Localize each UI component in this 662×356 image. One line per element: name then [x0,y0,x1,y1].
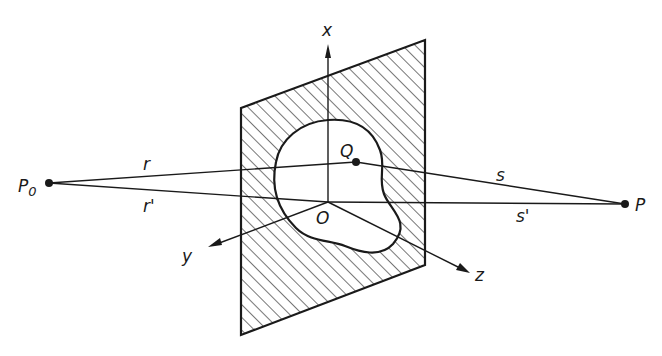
x-axis-arrow-icon [325,44,331,58]
label-z-axis: z [474,265,485,285]
opaque-screen [241,40,425,335]
label-s: s [496,165,505,185]
label-x-axis: x [321,20,333,40]
label-P: P [635,195,646,215]
source-point-P0 [45,179,53,187]
observer-point-P [621,200,629,208]
label-Q: Q [340,141,353,161]
label-s-prime: s' [516,206,530,226]
z-axis-arrow-icon [456,263,470,273]
label-O: O [316,208,329,228]
label-r: r [143,154,151,174]
diffraction-diagram: P0 P Q O r r' s s' x y z [0,0,662,356]
label-P0: P0 [18,176,37,199]
label-y-axis: y [181,246,193,266]
label-r-prime: r' [143,196,155,216]
y-axis-arrow-icon [208,238,222,247]
